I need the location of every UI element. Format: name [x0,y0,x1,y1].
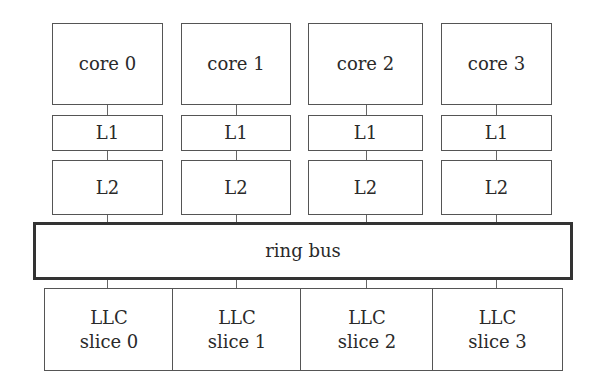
l2-label: L2 [96,176,119,200]
connector [107,151,108,160]
l1-cache-2: L1 [308,115,423,151]
connector [107,280,108,288]
l1-label: L1 [224,121,247,145]
core-3-label: core 3 [468,52,525,76]
connector [496,151,497,160]
l2-label: L2 [485,176,508,200]
l1-label: L1 [354,121,377,145]
core-0-label: core 0 [79,52,136,76]
llc-slice-1: LLC slice 1 [172,288,301,371]
core-3-box: core 3 [441,23,552,105]
l1-label: L1 [485,121,508,145]
connector [236,105,237,115]
llc-label: LLC [90,306,128,330]
l2-cache-3: L2 [441,160,552,215]
l1-cache-1: L1 [181,115,291,151]
connector [496,280,497,288]
connector [496,105,497,115]
llc-slice-0: LLC slice 0 [44,288,173,371]
l1-cache-0: L1 [52,115,163,151]
core-2-label: core 2 [337,52,394,76]
llc-label: LLC [218,306,256,330]
slice-label: slice 3 [468,330,527,354]
llc-label: LLC [479,306,517,330]
llc-label: LLC [348,306,386,330]
llc-slice-2: LLC slice 2 [300,288,433,371]
slice-label: slice 0 [80,330,139,354]
l2-cache-1: L2 [181,160,291,215]
connector [236,280,237,288]
connector [366,280,367,288]
l1-cache-3: L1 [441,115,552,151]
connector [366,151,367,160]
slice-label: slice 2 [338,330,397,354]
core-1-box: core 1 [181,23,291,105]
slice-label: slice 1 [208,330,267,354]
l1-label: L1 [96,121,119,145]
ring-bus: ring bus [33,222,573,280]
connector [107,105,108,115]
core-2-box: core 2 [308,23,423,105]
connector [236,151,237,160]
ring-bus-label: ring bus [265,239,341,263]
l2-cache-2: L2 [308,160,423,215]
l2-label: L2 [224,176,247,200]
connector [366,105,367,115]
l2-label: L2 [354,176,377,200]
core-0-box: core 0 [52,23,163,105]
l2-cache-0: L2 [52,160,163,215]
llc-slice-3: LLC slice 3 [432,288,563,371]
core-1-label: core 1 [207,52,264,76]
